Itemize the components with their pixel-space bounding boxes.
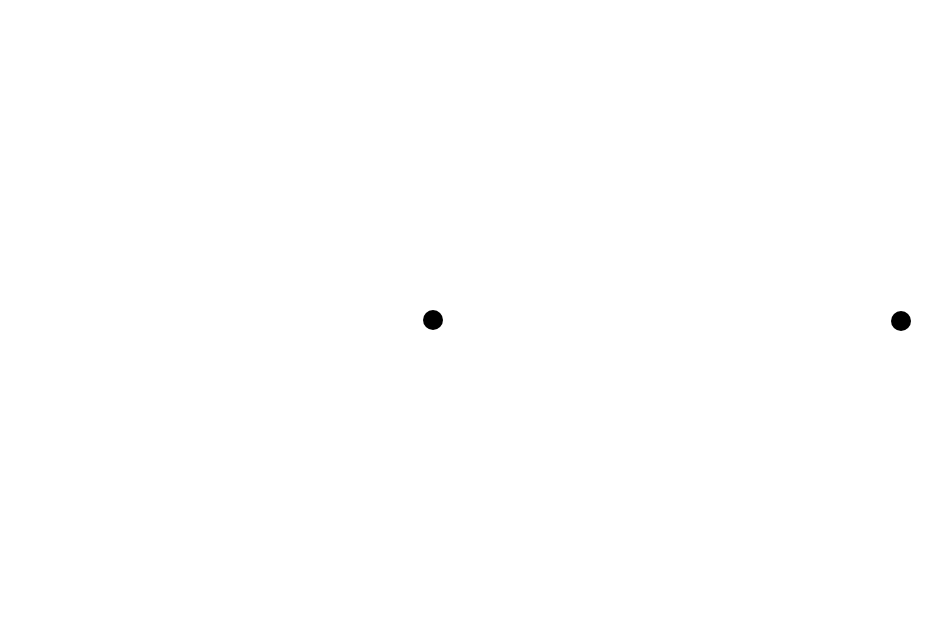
black-dot-left: [423, 310, 443, 330]
blank-canvas: [0, 0, 940, 637]
black-dot-right: [891, 311, 911, 331]
